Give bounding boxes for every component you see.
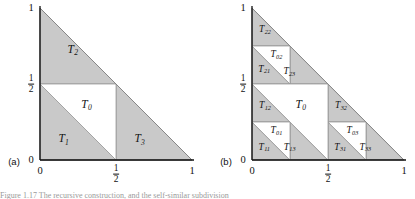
triangle-geometry-layer [0,0,415,199]
region-label-subscript: 01 [276,129,282,136]
region-label-T22: T22 [259,25,271,35]
region-label-subscript: 13 [289,146,295,153]
region-label-T13: T13 [284,143,296,153]
region-label-T23: T23 [283,67,295,77]
region-label-T31: T31 [334,143,346,153]
region-label-subscript: 31 [340,146,346,153]
region-label-T0: T0 [295,99,305,111]
region-label-subscript: 32 [341,104,347,111]
region-label-base: T [295,98,302,110]
y-tick-0: 0 [240,155,245,166]
x-tick-half-numerator: 1 [113,164,119,175]
region-label-base: T [283,66,288,76]
y-tick-half: 12 [240,74,246,95]
region-label-base: T [134,133,141,145]
x-tick-half-numerator: 1 [325,164,331,175]
region-label-subscript: 02 [276,53,282,60]
region-label-T33: T33 [359,143,371,153]
region-label-base: T [346,125,351,135]
x-tick-half-denominator: 2 [113,175,119,185]
region-label-base: T [259,24,264,34]
y-tick-half-denominator: 2 [28,85,34,95]
x-tick-half-denominator: 2 [325,175,331,185]
figure-root: 10120121(a)T2T0T1T310120121(b)T22T02T21T… [0,0,415,199]
region-label-T12: T12 [259,101,271,111]
region-label-subscript: 23 [289,70,295,77]
x-tick-0: 0 [249,166,254,177]
region-label-T03: T03 [346,126,358,136]
region-label-subscript: 21 [264,68,270,75]
region-label-T02: T02 [270,50,282,60]
region-label-base: T [270,49,275,59]
region-label-T3: T3 [134,134,144,146]
region-label-base: T [58,133,65,145]
region-label-subscript: 11 [264,146,270,153]
y-tick-half: 12 [28,74,34,95]
region-label-T21: T21 [258,65,270,75]
region-label-subscript: 03 [352,129,358,136]
region-label-base: T [258,64,263,74]
y-tick-1: 1 [28,3,33,14]
region-label-subscript: 0 [88,103,92,112]
region-label-base: T [335,100,340,110]
region-label-base: T [334,142,339,152]
caption-text: Figure 1.17 The recursive construction, … [0,191,229,199]
region-label-T0: T0 [81,99,91,111]
y-tick-half-numerator: 1 [28,74,34,85]
region-label-base: T [259,100,264,110]
y-tick-0: 0 [28,155,33,166]
x-tick-1: 1 [189,166,194,177]
region-label-subscript: 2 [74,48,78,57]
region-label-T01: T01 [270,126,282,136]
region-label-T11: T11 [259,143,270,153]
region-label-subscript: 1 [65,138,69,147]
y-tick-1: 1 [240,3,245,14]
region-label-subscript: 0 [302,103,306,112]
region-label-base: T [81,98,88,110]
region-label-subscript: 33 [365,146,371,153]
region-label-base: T [259,142,264,152]
panel-tag: (b) [220,157,232,167]
figure-caption: Figure 1.17 The recursive construction, … [0,190,415,199]
region-label-T32: T32 [335,101,347,111]
region-label-subscript: 12 [265,104,271,111]
y-tick-half-numerator: 1 [240,74,246,85]
region-label-base: T [270,125,275,135]
region-label-base: T [284,142,289,152]
region-label-subscript: 3 [141,138,145,147]
region-label-base: T [359,142,364,152]
panel-tag: (a) [8,157,20,167]
region-label-subscript: 22 [265,28,271,35]
x-tick-half: 12 [325,164,331,185]
region-label-base: T [68,43,75,55]
y-tick-half-denominator: 2 [240,85,246,95]
x-tick-0: 0 [37,166,42,177]
region-label-T2: T2 [68,44,78,56]
x-tick-half: 12 [113,164,119,185]
x-tick-1: 1 [401,166,406,177]
region-label-T1: T1 [58,134,68,146]
